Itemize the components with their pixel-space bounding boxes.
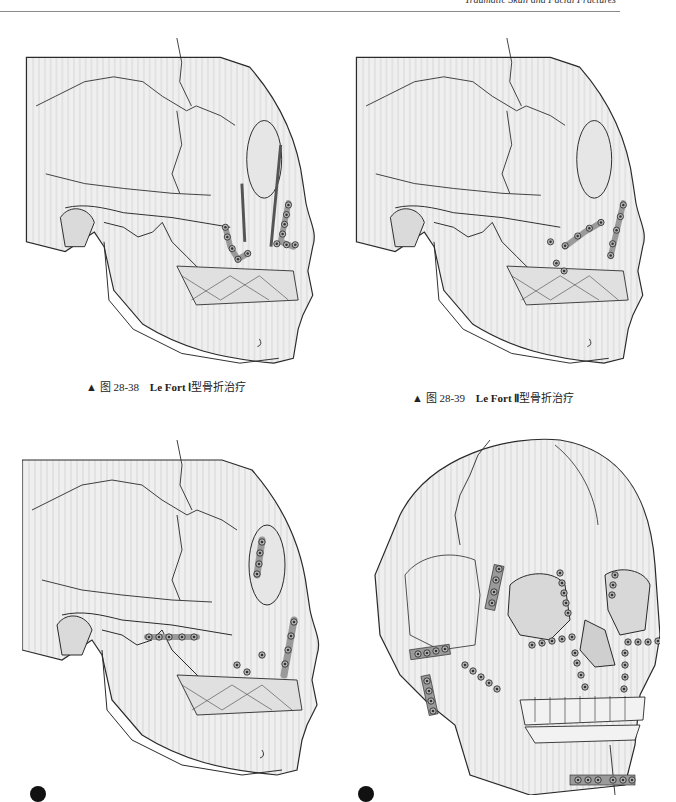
figure-caption-28-39: ▲ 图 28-39 Le Fort Ⅱ型骨折治疗 bbox=[412, 389, 574, 405]
lateral-skull-illustration bbox=[352, 38, 652, 368]
figure-panel-a bbox=[22, 440, 322, 780]
caption-number: 图 28-38 bbox=[100, 381, 139, 393]
figure-le-fort-ii bbox=[352, 38, 652, 368]
header-rule bbox=[0, 11, 620, 12]
figure-caption-28-38: ▲ 图 28-38 Le Fort Ⅰ型骨折治疗 bbox=[86, 378, 246, 394]
panel-badge-b bbox=[358, 786, 374, 802]
frontal-skull-illustration bbox=[360, 435, 660, 795]
bone-plate bbox=[570, 775, 635, 785]
caption-fracture-type: Le Fort Ⅱ bbox=[476, 392, 519, 404]
caption-description: 型骨折治疗 bbox=[519, 392, 574, 404]
lateral-skull-illustration bbox=[22, 38, 322, 368]
bone-plate bbox=[146, 634, 197, 640]
figure-panel-b bbox=[360, 435, 660, 795]
caption-fracture-type: Le Fort Ⅰ bbox=[150, 381, 191, 393]
caption-marker: ▲ bbox=[412, 392, 423, 404]
figure-le-fort-i bbox=[22, 38, 322, 368]
caption-number: 图 28-39 bbox=[426, 392, 465, 404]
lateral-skull-illustration bbox=[22, 440, 322, 780]
running-header: Traumatic Skull and Facial Fractures bbox=[465, 0, 616, 5]
caption-description: 型骨折治疗 bbox=[191, 381, 246, 393]
panel-badge-a bbox=[30, 786, 46, 802]
caption-marker: ▲ bbox=[86, 381, 97, 393]
